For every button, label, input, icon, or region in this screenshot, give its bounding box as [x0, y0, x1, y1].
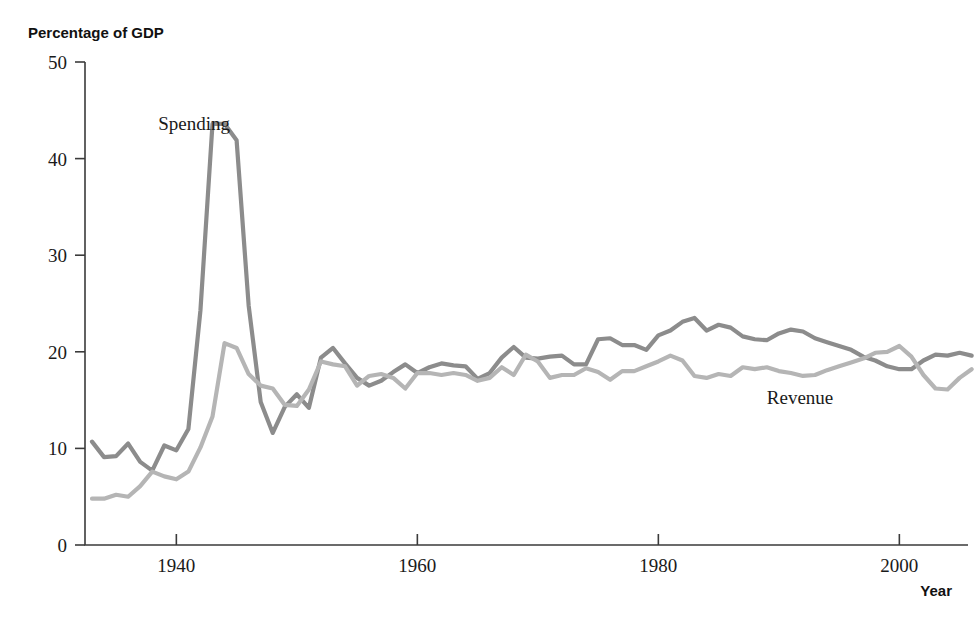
y-tick-label: 40	[48, 149, 67, 170]
x-tick-label: 1980	[639, 555, 677, 576]
gdp-line-chart: Percentage of GDP 50403020100 1940196019…	[0, 0, 980, 617]
chart-container: Percentage of GDP 50403020100 1940196019…	[0, 0, 980, 617]
x-axis-title: Year	[920, 582, 952, 599]
y-tick-label: 30	[48, 245, 67, 266]
y-tick-label: 50	[48, 52, 67, 73]
chart-background	[0, 0, 980, 617]
series-annotation-revenue: Revenue	[767, 387, 833, 408]
x-tick-label: 1960	[398, 555, 436, 576]
y-tick-label: 0	[58, 535, 68, 556]
series-annotation-spending: Spending	[158, 113, 230, 134]
y-tick-label: 10	[48, 438, 67, 459]
y-tick-label: 20	[48, 342, 67, 363]
x-tick-label: 2000	[880, 555, 918, 576]
x-tick-label: 1940	[157, 555, 195, 576]
y-axis-title: Percentage of GDP	[28, 24, 164, 41]
